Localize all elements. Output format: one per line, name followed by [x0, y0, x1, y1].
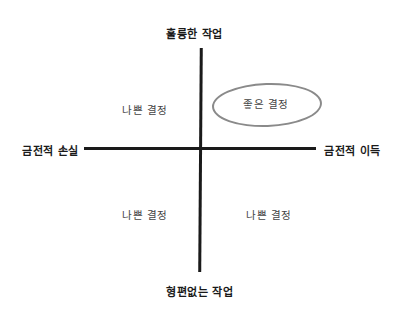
quadrant-label-top-left: 나쁜 결정	[122, 102, 168, 117]
quadrant-label-bottom-right: 나쁜 결정	[246, 207, 292, 222]
quadrant-diagram: 훌륭한 작업 형편없는 작업 금전적 손실 금전적 이득 나쁜 결정 좋은 결정…	[0, 0, 397, 314]
vertical-axis-line	[198, 48, 202, 272]
quadrant-label-top-right: 좋은 결정	[243, 96, 289, 111]
axis-label-right: 금전적 이득	[324, 142, 381, 158]
quadrant-label-bottom-left: 나쁜 결정	[122, 207, 168, 222]
horizontal-axis-line	[84, 147, 316, 150]
axis-label-bottom: 형편없는 작업	[166, 283, 233, 299]
axis-label-left: 금전적 손실	[22, 142, 79, 158]
axis-label-top: 훌륭한 작업	[166, 25, 223, 41]
